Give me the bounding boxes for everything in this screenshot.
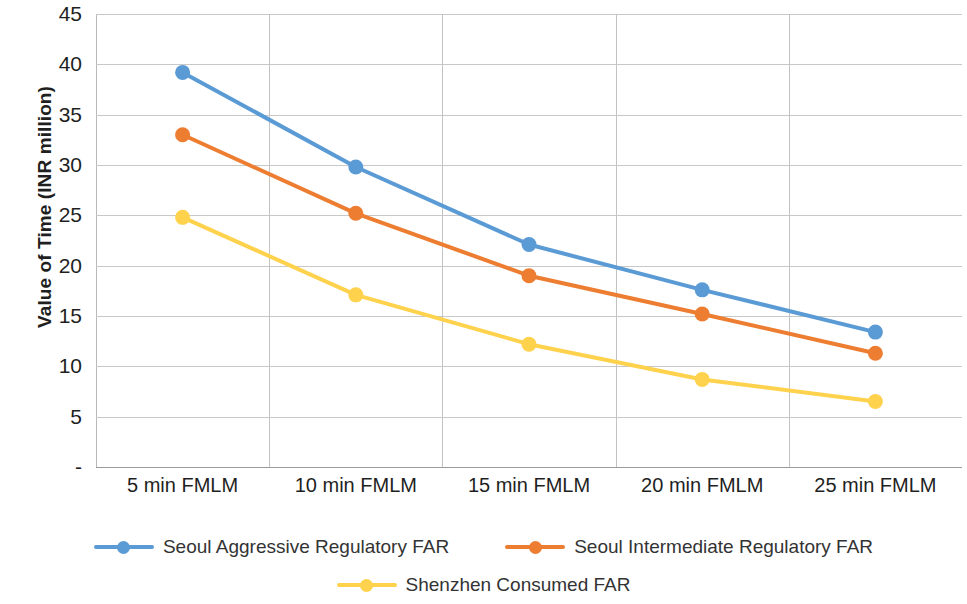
data-point-marker bbox=[868, 346, 883, 361]
data-point-marker bbox=[522, 268, 537, 283]
legend-label: Seoul Aggressive Regulatory FAR bbox=[163, 536, 449, 558]
legend-dot-icon bbox=[529, 541, 542, 554]
data-point-marker bbox=[348, 160, 363, 175]
gridline-horizontal bbox=[96, 467, 962, 468]
data-point-marker bbox=[348, 206, 363, 221]
y-axis-tick-label: - bbox=[10, 455, 82, 479]
data-point-marker bbox=[868, 325, 883, 340]
x-axis-tick-label: 15 min FMLM bbox=[442, 474, 615, 510]
y-axis-tick-labels: 45403530252015105- bbox=[0, 14, 82, 467]
y-axis-tick-label: 35 bbox=[10, 103, 82, 127]
legend-label: Seoul Intermediate Regulatory FAR bbox=[574, 536, 873, 558]
y-axis-tick-label: 20 bbox=[10, 254, 82, 278]
data-point-marker bbox=[175, 65, 190, 80]
data-point-marker bbox=[175, 210, 190, 225]
y-axis-tick-label: 25 bbox=[10, 203, 82, 227]
legend-dot-icon bbox=[117, 541, 130, 554]
legend-dot-icon bbox=[360, 579, 373, 592]
legend-row: Seoul Aggressive Regulatory FARSeoul Int… bbox=[0, 528, 967, 566]
x-axis-tick-label: 10 min FMLM bbox=[269, 474, 442, 510]
data-point-marker bbox=[695, 282, 710, 297]
legend-item[interactable]: Seoul Aggressive Regulatory FAR bbox=[94, 536, 449, 558]
data-point-marker bbox=[695, 306, 710, 321]
data-point-marker bbox=[175, 127, 190, 142]
x-axis-tick-labels: 5 min FMLM10 min FMLM15 min FMLM20 min F… bbox=[96, 474, 962, 510]
series-line bbox=[183, 72, 876, 332]
series-group bbox=[175, 65, 883, 340]
x-axis-tick-label: 25 min FMLM bbox=[789, 474, 962, 510]
plot-area bbox=[96, 14, 962, 467]
legend-marker-icon bbox=[337, 576, 397, 594]
y-axis-tick-label: 45 bbox=[10, 2, 82, 26]
y-axis-tick-label: 5 bbox=[10, 405, 82, 429]
data-point-marker bbox=[522, 337, 537, 352]
legend-label: Shenzhen Consumed FAR bbox=[406, 574, 631, 596]
legend-marker-icon bbox=[94, 538, 154, 556]
y-axis-tick-label: 30 bbox=[10, 153, 82, 177]
y-axis-tick-label: 10 bbox=[10, 354, 82, 378]
chart-legend: Seoul Aggressive Regulatory FARSeoul Int… bbox=[0, 528, 967, 604]
x-axis-tick-label: 5 min FMLM bbox=[96, 474, 269, 510]
line-chart: Value of Time (INR million) 454035302520… bbox=[0, 0, 967, 604]
data-point-marker bbox=[695, 372, 710, 387]
series-layer bbox=[96, 14, 962, 467]
x-axis-tick-label: 20 min FMLM bbox=[616, 474, 789, 510]
legend-item[interactable]: Shenzhen Consumed FAR bbox=[337, 574, 631, 596]
data-point-marker bbox=[348, 287, 363, 302]
legend-marker-icon bbox=[505, 538, 565, 556]
legend-item[interactable]: Seoul Intermediate Regulatory FAR bbox=[505, 536, 873, 558]
legend-row: Shenzhen Consumed FAR bbox=[0, 566, 967, 604]
y-axis-tick-label: 15 bbox=[10, 304, 82, 328]
y-axis-tick-label: 40 bbox=[10, 52, 82, 76]
data-point-marker bbox=[868, 394, 883, 409]
data-point-marker bbox=[522, 237, 537, 252]
